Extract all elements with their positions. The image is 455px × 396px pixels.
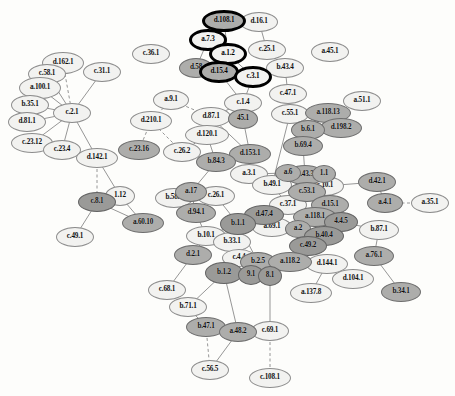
graph-node-label: a.6 xyxy=(284,169,292,176)
graph-node[interactable]: b.71.1 xyxy=(169,297,207,317)
graph-node[interactable]: c.8.1 xyxy=(78,192,116,212)
graph-node-label: d.42.1 xyxy=(368,178,385,185)
graph-node-label: 8.1 xyxy=(266,272,274,279)
graph-node[interactable]: d.198.2 xyxy=(320,118,362,138)
graph-node[interactable]: b.34.1 xyxy=(381,282,421,302)
graph-node-label: c.26.1 xyxy=(208,192,224,199)
graph-node[interactable]: c.56.5 xyxy=(191,360,229,380)
graph-node[interactable]: d.142.1 xyxy=(76,148,118,168)
graph-node-label: c.25.1 xyxy=(259,46,275,53)
graph-node-label: b.87.1 xyxy=(370,226,387,233)
graph-node-label: d.104.1 xyxy=(343,275,364,282)
graph-node-label: 45.1 xyxy=(237,115,249,122)
graph-node-label: c.55.1 xyxy=(282,110,298,117)
graph-node-label: a.60.10 xyxy=(133,219,153,226)
graph-node-label: c.23.16 xyxy=(129,146,149,153)
graph-node-label: c.68.1 xyxy=(159,286,175,293)
graph-node-label: d.153.1 xyxy=(240,150,261,157)
graph-node[interactable]: a.35.1 xyxy=(411,193,449,213)
graph-node[interactable]: d.42.1 xyxy=(358,172,396,192)
graph-node-label: b.43.4 xyxy=(276,64,293,71)
graph-node-label: a.17 xyxy=(185,188,197,195)
graph-node[interactable]: a.76.1 xyxy=(354,246,394,266)
graph-node-label: b.47.1 xyxy=(197,323,214,330)
graph-node-label: d.142.1 xyxy=(87,154,108,161)
graph-node-label: a.35.1 xyxy=(422,199,439,206)
graph-node-label: c.49.1 xyxy=(67,233,83,240)
graph-node-label: d.120.1 xyxy=(197,131,218,138)
graph-node-label: a.76.1 xyxy=(366,252,383,259)
graph-node[interactable]: d.104.1 xyxy=(332,269,374,289)
graph-node[interactable]: a.45.1 xyxy=(311,42,349,62)
graph-node[interactable]: c.3.1 xyxy=(234,66,272,88)
graph-node-label: d.2.1 xyxy=(186,251,200,258)
graph-node[interactable]: d.2.1 xyxy=(174,245,212,265)
graph-node[interactable]: 1.1 xyxy=(312,165,336,183)
graph-node[interactable]: a.4.1 xyxy=(367,193,403,213)
graph-node-label: a.51.1 xyxy=(354,97,371,104)
graph-node-label: a.45.1 xyxy=(322,48,339,55)
graph-node-label: c.56.5 xyxy=(202,366,218,373)
graph-node-label: a.9.1 xyxy=(164,96,177,103)
graph-node[interactable]: a.137.8 xyxy=(290,283,332,303)
graph-node-label: a.48.2 xyxy=(230,328,247,335)
graph-node[interactable]: a.17 xyxy=(175,182,207,202)
graph-node[interactable]: b.1.1 xyxy=(220,213,256,235)
graph-node-label: b.35.1 xyxy=(21,101,38,108)
graph-node[interactable]: d.94.1 xyxy=(176,203,216,223)
graph-node-label: c.53.1 xyxy=(299,188,315,195)
graph-node-label: a.7.3 xyxy=(201,36,214,43)
graph-node-label: d.108.1 xyxy=(214,17,235,24)
graph-node-label: a.118.2 xyxy=(280,258,300,265)
graph-node[interactable]: a.60.10 xyxy=(122,213,164,233)
graph-node-label: b.10.1 xyxy=(197,232,214,239)
graph-node-label: a.100.1 xyxy=(30,84,50,91)
graph-node-label: c.26.2 xyxy=(174,148,190,155)
graph-node-label: c.1.4 xyxy=(237,99,250,106)
graph-node[interactable]: 45.1 xyxy=(228,109,258,129)
graph-node-label: b.1.2 xyxy=(217,269,231,276)
graph-node-label: b.1.1 xyxy=(231,220,245,227)
graph-node[interactable]: a.9.1 xyxy=(153,90,189,110)
graph-node[interactable]: d.15.4 xyxy=(199,61,239,83)
graph-node[interactable]: c.47.1 xyxy=(269,84,307,104)
graph-node[interactable]: c.108.1 xyxy=(249,368,291,388)
graph-node-label: d.81.1 xyxy=(18,118,35,125)
graph-node-label: c.108.1 xyxy=(260,374,280,381)
graph-node[interactable]: d.210.1 xyxy=(130,111,172,131)
graph-node[interactable]: c.2.1 xyxy=(53,103,91,123)
graph-node-label: b.84.3 xyxy=(207,158,224,165)
graph-node-label: d.16.1 xyxy=(250,18,267,25)
graph-node[interactable]: b.69.4 xyxy=(283,136,323,156)
graph-node-label: d.47.4 xyxy=(255,211,272,218)
graph-node-label: c.23.12 xyxy=(22,139,42,146)
graph-node-label: c.2.1 xyxy=(66,109,79,116)
graph-node[interactable]: a.48.2 xyxy=(219,322,257,342)
graph-node[interactable]: d.120.1 xyxy=(185,125,229,145)
graph-node-label: b.33.1 xyxy=(223,238,240,245)
graph-node[interactable]: 8.1 xyxy=(258,266,282,286)
graph-node-label: a.1.2 xyxy=(221,50,234,57)
graph-node[interactable]: d.81.1 xyxy=(8,112,46,132)
graph-node[interactable]: c.25.1 xyxy=(248,40,286,60)
graph-node[interactable]: c.31.1 xyxy=(83,62,121,82)
graph-node-label: 1.12 xyxy=(114,192,126,199)
graph-node[interactable]: a.6 xyxy=(275,164,301,182)
graph-node[interactable]: b.87.1 xyxy=(359,220,399,240)
graph-node-label: c.31.1 xyxy=(94,68,110,75)
graph-node[interactable]: c.36.1 xyxy=(132,44,170,64)
graph-node-label: 1.1 xyxy=(320,170,328,177)
graph-node-label: b.49.1 xyxy=(263,181,280,188)
graph-node-label: a.2 xyxy=(294,225,302,232)
graph-node-label: b.34.1 xyxy=(392,288,409,295)
graph-node[interactable]: c.49.1 xyxy=(56,227,94,247)
graph-node-label: c.49.2 xyxy=(300,242,316,249)
graph-node-label: c.69.1 xyxy=(262,327,278,334)
graph-node[interactable]: d.87.1 xyxy=(191,107,231,127)
graph-node-label: d.144.1 xyxy=(317,260,338,267)
graph-node[interactable]: b.84.3 xyxy=(196,152,236,172)
graph-node-label: c.23.4 xyxy=(54,146,70,153)
graph-node[interactable]: c.23.16 xyxy=(118,140,160,160)
graph-node-label: d.87.1 xyxy=(202,113,219,120)
graph-node[interactable]: c.26.2 xyxy=(163,142,201,162)
